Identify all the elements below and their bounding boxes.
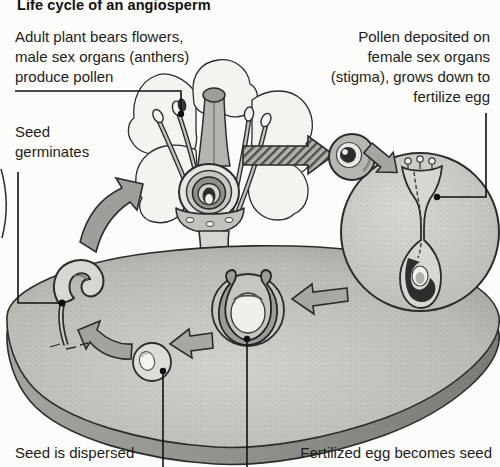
angiosperm-life-cycle-figure: Life cycle of an angiosperm Adult plant … [0,0,500,467]
label-line: Pollen deposited on [331,27,490,47]
label-line: fertilize egg [331,87,490,107]
label-seed-dispersed: Seed is dispersed [15,443,134,463]
leader-dot-seedling [59,300,66,307]
leader-dot-anther [178,111,184,117]
label-seed-germinates: Seed germinates [15,122,89,162]
label-adult-plant: Adult plant bears flowers, male sex orga… [15,27,189,87]
leader-dot-style [434,194,440,200]
leader-dot-fruit [244,336,250,342]
label-pollen-deposited: Pollen deposited on female sex organs (s… [331,27,490,107]
cycle-arrow-seedling-to-flower [80,178,143,252]
leader-dot-seed [160,368,166,374]
label-line: male sex organs (anthers) [15,47,189,67]
figure-title: Life cycle of an angiosperm [17,0,211,13]
label-line: Fertilized egg becomes seed [300,443,492,463]
label-line: (stigma), grows down to [331,67,490,87]
label-line: Adult plant bears flowers, [15,27,189,47]
label-line: germinates [15,142,89,162]
label-line: Seed [15,122,89,142]
label-line: Seed is dispersed [15,443,134,463]
label-line: produce pollen [15,67,189,87]
label-line: female sex organs [331,47,490,67]
left-edge-fragment [1,169,6,238]
label-fertilized-egg: Fertilized egg becomes seed [300,443,492,463]
dispersed-seed-circle [133,343,171,381]
